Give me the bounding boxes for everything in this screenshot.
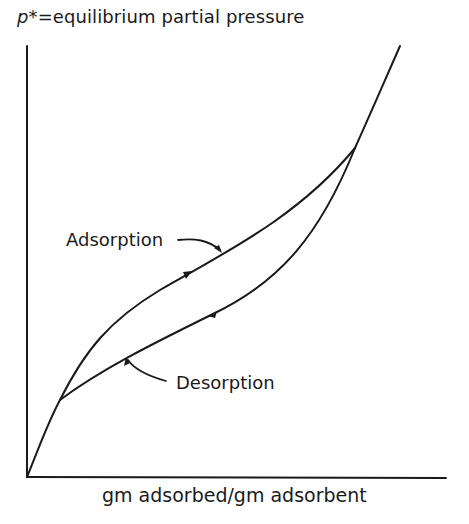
initial-curve xyxy=(27,400,60,477)
x-axis xyxy=(27,477,446,478)
desorption-label: Desorption xyxy=(176,372,275,393)
adsorption-leader xyxy=(178,239,220,250)
desorption-leader xyxy=(128,360,166,381)
adsorption-curve xyxy=(60,148,355,400)
adsorption-arrow-icon xyxy=(183,271,192,279)
x-axis-label: gm adsorbed/gm adsorbent xyxy=(102,484,367,506)
desorption-curve xyxy=(60,148,355,400)
adsorption-label: Adsorption xyxy=(66,229,163,250)
common-curve xyxy=(355,46,400,148)
hysteresis-diagram xyxy=(0,0,469,524)
desorption-arrow-icon xyxy=(208,311,217,318)
